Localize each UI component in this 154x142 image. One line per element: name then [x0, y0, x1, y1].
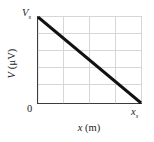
plot-svg: [37, 16, 142, 104]
y-axis-title: V (μV): [6, 22, 17, 106]
origin-tick-label: 0: [27, 103, 32, 114]
plot-area: [37, 16, 142, 104]
vertical-gridlines: [64, 16, 142, 104]
y-axis-title-symbol: V: [6, 72, 17, 79]
x-max-tick-label: xs: [131, 106, 138, 119]
x-max-tick-subscript: s: [136, 112, 139, 119]
x-axis-title-unit: (m): [85, 122, 100, 133]
y-axis-title-unit: (μV): [6, 49, 17, 70]
x-axis-title: x (m): [34, 122, 144, 133]
potential-vs-position-figure: V (μV) x (m) Vs 0 xs: [0, 0, 154, 142]
y-max-tick-label: Vs: [22, 7, 31, 20]
y-max-tick-subscript: s: [28, 13, 31, 20]
